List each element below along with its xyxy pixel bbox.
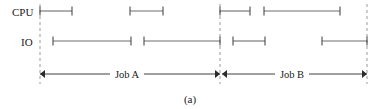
io-burst-4 [322, 37, 367, 46]
job-span-arrows: Job AJob B [40, 69, 367, 80]
io-burst-2 [144, 37, 220, 46]
job-b-span-left-arrowhead [222, 70, 227, 78]
timeline-canvas: Job AJob B CPUIO (a) [0, 0, 381, 109]
job-a-span: Job A [40, 69, 220, 80]
cpu-io-timeline-figure: Job AJob B CPUIO (a) [0, 0, 381, 109]
job-b-span-label: Job B [280, 69, 304, 80]
row-label-cpu: CPU [12, 6, 33, 18]
cpu-burst-1 [40, 7, 72, 16]
cpu-burst-3 [220, 7, 250, 16]
row-labels: CPUIO [12, 6, 33, 48]
figure-caption: (a) [184, 93, 197, 106]
job-a-span-label: Job A [115, 69, 140, 80]
io-burst-3 [233, 37, 265, 46]
job-divider-lines [40, 4, 367, 84]
cpu-burst-2 [130, 7, 163, 16]
job-b-span-right-arrowhead [362, 70, 367, 78]
burst-bars [40, 7, 367, 46]
cpu-burst-4 [264, 7, 340, 16]
row-label-io: IO [21, 36, 33, 48]
io-burst-1 [53, 37, 131, 46]
job-a-span-right-arrowhead [215, 70, 220, 78]
job-b-span: Job B [222, 69, 367, 80]
job-a-span-left-arrowhead [40, 70, 45, 78]
